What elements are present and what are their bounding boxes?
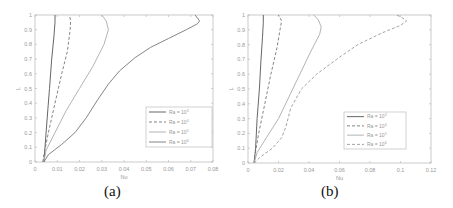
legend-label: Ra = 105 [367,132,387,138]
chart-panel-b: 00.020.040.060.080.10.1200.10.20.30.40.5… [228,12,436,181]
legend: Ra = 103Ra = 104Ra = 105Ra = 106 [146,107,212,147]
y-tick-label: 1 [242,12,245,18]
x-tick-label: 0.04 [304,167,315,173]
y-tick-label: 0.9 [237,27,245,33]
y-tick-label: 0.7 [237,56,245,62]
x-tick-label: 0.03 [96,166,107,172]
x-tick-label: 0.1 [397,167,405,173]
x-tick-label: 0.08 [208,166,219,172]
x-tick-label: 0.06 [163,166,174,172]
legend-label: Ra = 105 [169,129,189,135]
x-tick-label: 0.02 [273,167,284,173]
y-tick-label: 0 [29,159,32,165]
y-tick-label: 0.3 [24,115,32,121]
x-tick-label: 0.02 [74,166,85,172]
chart-panel-a: 00.010.020.030.040.050.060.070.0800.10.2… [15,12,218,180]
x-tick-label: 0.08 [365,167,376,173]
x-axis-label: Nu [120,174,127,180]
x-tick-label: 0.06 [334,167,345,173]
legend-label: Ra = 104 [169,119,189,125]
y-tick-label: 1 [29,12,32,18]
y-tick-label: 0.6 [24,71,32,77]
y-tick-label: 0.1 [237,145,245,151]
legend-label: Ra = 106 [367,141,387,147]
y-tick-label: 0.1 [24,144,32,150]
y-tick-label: 0.9 [24,27,32,33]
legend: Ra = 103Ra = 104Ra = 105Ra = 106 [344,112,406,149]
x-tick-label: 0.07 [185,166,196,172]
legend-label: Ra = 103 [169,109,189,115]
y-tick-label: 0.8 [24,41,32,47]
caption-b: (b) [321,183,339,200]
x-tick-label: 0 [33,166,36,172]
legend-label: Ra = 103 [367,113,387,119]
legend-label: Ra = 104 [367,123,387,129]
y-tick-label: 0.2 [24,130,32,136]
x-tick-label: 0.01 [52,166,63,172]
y-tick-label: 0.2 [237,130,245,136]
y-tick-label: 0.3 [237,116,245,122]
y-tick-label: 0.6 [237,71,245,77]
y-tick-label: 0.8 [237,42,245,48]
y-tick-label: 0.4 [24,100,32,106]
caption-a: (a) [104,183,121,200]
x-tick-label: 0.05 [141,166,152,172]
y-tick-label: 0.5 [237,86,245,92]
x-tick-label: 0 [246,167,249,173]
x-axis-label: Nu [336,175,343,181]
x-tick-label: 0.04 [119,166,130,172]
y-axis-label: L [228,87,234,90]
y-tick-label: 0.7 [24,56,32,62]
figure-canvas: 00.010.020.030.040.050.060.070.0800.10.2… [0,0,453,208]
y-tick-label: 0.4 [237,101,245,107]
x-tick-label: 0.12 [426,167,437,173]
y-axis-label: L [15,87,21,90]
y-tick-label: 0.5 [24,86,32,92]
y-tick-label: 0 [242,160,245,166]
legend-label: Ra = 106 [169,139,189,145]
